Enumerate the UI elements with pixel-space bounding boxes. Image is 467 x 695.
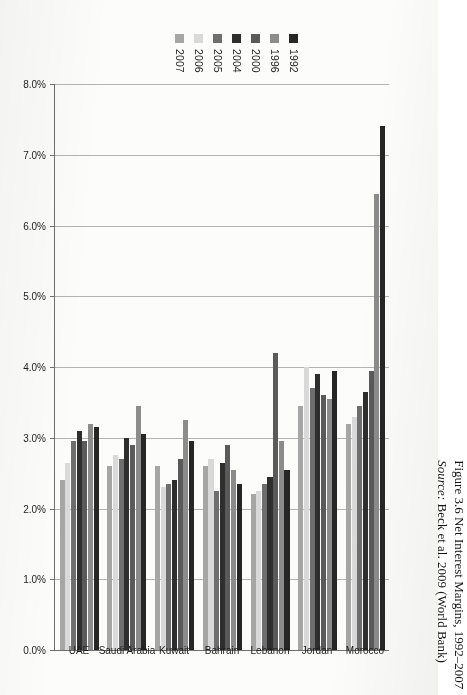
legend-item[interactable]: 2007 <box>174 34 185 73</box>
bar <box>237 483 242 649</box>
bar <box>141 434 146 650</box>
bar <box>327 398 332 649</box>
axis-line <box>54 84 55 650</box>
legend-item[interactable]: 2004 <box>231 34 242 73</box>
legend-label: 1996 <box>269 49 280 73</box>
bar <box>346 423 351 649</box>
figure-stage: 1992199620002004200520062007 8.0%7.0%6.0… <box>43 28 395 668</box>
bar <box>203 466 208 650</box>
axis-tick-label: 6.0% <box>23 220 46 231</box>
bar <box>321 395 326 650</box>
bar <box>71 441 76 650</box>
category-label: Bahrain <box>205 645 239 656</box>
bar <box>94 427 99 650</box>
axis-tick-label: 3.0% <box>23 432 46 443</box>
axis-tick-label: 5.0% <box>23 290 46 301</box>
legend-swatch <box>232 34 241 43</box>
legend-swatch <box>213 34 222 43</box>
bar <box>136 405 141 649</box>
bar <box>262 483 267 649</box>
gridline <box>55 367 389 368</box>
axis-tick-label: 0.0% <box>23 644 46 655</box>
legend-label: 2004 <box>231 49 242 73</box>
bar <box>124 437 129 649</box>
gridline <box>55 225 389 226</box>
bar <box>369 370 374 649</box>
legend-swatch <box>289 34 298 43</box>
plot-inner: 8.0%7.0%6.0%5.0%4.0%3.0%2.0%1.0%0.0%Moro… <box>55 84 389 650</box>
gridline <box>55 296 389 297</box>
legend-swatch <box>194 34 203 43</box>
bar <box>189 441 194 650</box>
bar <box>119 458 124 649</box>
chart-legend: 1992199620002004200520062007 <box>174 34 299 73</box>
bar <box>374 193 379 649</box>
bar <box>256 490 261 649</box>
gridline <box>55 84 389 85</box>
bar <box>380 126 385 650</box>
caption-title: Figure 3.6 Net Interest Margins, 1992–20… <box>451 460 467 689</box>
bar <box>155 466 160 650</box>
bar <box>357 405 362 649</box>
bar <box>113 455 118 650</box>
caption-source-rest: Beck et al. 2009 (World Bank) <box>435 500 450 663</box>
category-label: Saudi Arabia <box>98 645 155 656</box>
axis-tick-label: 4.0% <box>23 361 46 372</box>
legend-swatch <box>175 34 184 43</box>
bar <box>304 367 309 650</box>
category-label: Kuwait <box>159 645 189 656</box>
bar <box>310 388 315 650</box>
bar <box>178 458 183 649</box>
axis-tick-label: 1.0% <box>23 573 46 584</box>
bar <box>279 441 284 650</box>
bar <box>214 490 219 649</box>
bar <box>251 494 256 650</box>
legend-label: 2007 <box>174 49 185 73</box>
caption-source-prefix: Source: <box>435 460 450 500</box>
legend-item[interactable]: 2005 <box>212 34 223 73</box>
bar <box>172 480 177 650</box>
bar <box>273 352 278 649</box>
legend-item[interactable]: 2006 <box>193 34 204 73</box>
bar <box>82 441 87 650</box>
plot-area: 8.0%7.0%6.0%5.0%4.0%3.0%2.0%1.0%0.0%Moro… <box>55 84 389 650</box>
bar <box>183 420 188 650</box>
bar <box>107 466 112 650</box>
legend-swatch <box>270 34 279 43</box>
legend-label: 1992 <box>288 49 299 73</box>
bar <box>65 462 70 649</box>
legend-swatch <box>251 34 260 43</box>
bar <box>298 405 303 649</box>
bar <box>77 430 82 649</box>
bar <box>363 391 368 649</box>
axis-tick-label: 2.0% <box>23 503 46 514</box>
bar <box>332 370 337 649</box>
bar <box>225 444 230 649</box>
legend-item[interactable]: 2000 <box>250 34 261 73</box>
bar <box>352 416 357 649</box>
bar <box>130 444 135 649</box>
legend-item[interactable]: 1992 <box>288 34 299 73</box>
bar <box>220 462 225 649</box>
legend-label: 2000 <box>250 49 261 73</box>
category-label: Jordan <box>302 645 333 656</box>
bar <box>268 476 273 649</box>
gridline <box>55 154 389 155</box>
axis-tick-label: 8.0% <box>23 78 46 89</box>
bar <box>166 483 171 649</box>
bar <box>315 374 320 650</box>
bar <box>284 469 289 649</box>
bar <box>231 469 236 649</box>
category-label: UAE <box>69 645 90 656</box>
bar <box>60 480 65 650</box>
legend-label: 2005 <box>212 49 223 73</box>
gridline <box>55 437 389 438</box>
caption-source: Source: Beck et al. 2009 (World Bank) <box>434 460 451 689</box>
bar <box>88 423 93 649</box>
bar <box>208 458 213 649</box>
legend-label: 2006 <box>193 49 204 73</box>
category-label: Morocco <box>346 645 384 656</box>
legend-item[interactable]: 1996 <box>269 34 280 73</box>
category-label: Lebanon <box>250 645 289 656</box>
